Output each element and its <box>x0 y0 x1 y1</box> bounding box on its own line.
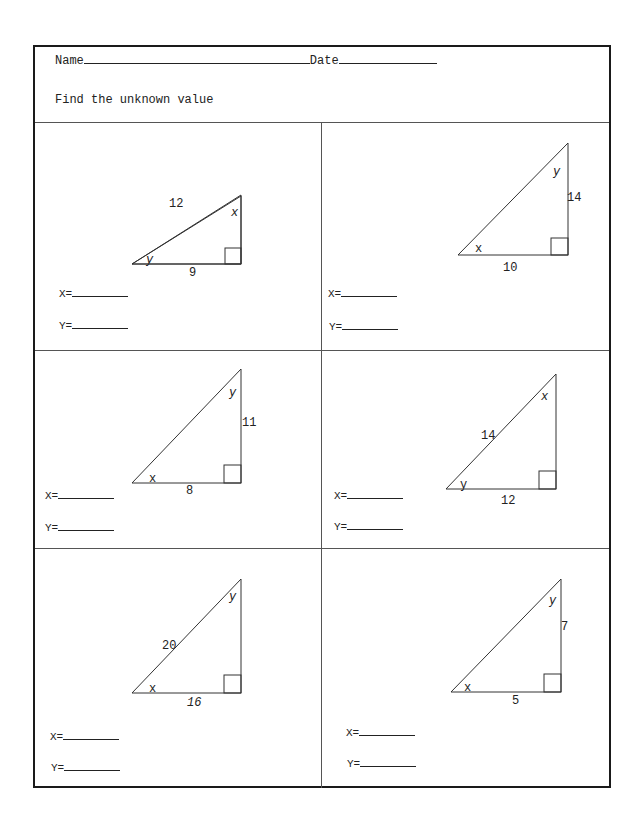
triangle-3-angle-top: y <box>228 386 237 400</box>
triangle-diagrams: 12 9 x y 14 10 y x 11 8 y x 14 12 x y <box>35 47 611 788</box>
answer-x-6[interactable]: X= <box>346 726 415 739</box>
answer-x-3-field[interactable] <box>58 489 114 499</box>
answer-y-6-field[interactable] <box>360 757 416 767</box>
triangle-1-angle-bottom: y <box>145 253 154 267</box>
triangle-5-hypotenuse: 20 <box>162 639 176 653</box>
answer-x-4[interactable]: X= <box>334 489 403 502</box>
answer-x-1-field[interactable] <box>72 287 128 297</box>
triangle-4-hypotenuse: 14 <box>481 429 495 443</box>
answer-x-2-field[interactable] <box>341 287 397 297</box>
triangle-3-angle-bottom: x <box>149 472 156 486</box>
answer-y-1[interactable]: Y= <box>59 319 128 332</box>
triangle-4-base: 12 <box>501 494 515 508</box>
triangle-5-base: 16 <box>187 696 201 710</box>
triangle-2 <box>458 143 568 255</box>
answer-x-3[interactable]: X= <box>45 489 114 502</box>
triangle-6-height: 7 <box>561 620 568 634</box>
triangle-3 <box>132 369 241 483</box>
answer-x-2[interactable]: X= <box>328 287 397 300</box>
triangle-3-height: 11 <box>242 416 256 430</box>
answer-y-3-field[interactable] <box>58 521 114 531</box>
triangle-6-base: 5 <box>512 694 519 708</box>
triangle-6-angle-bottom: x <box>464 681 471 695</box>
answer-y-4-field[interactable] <box>347 520 403 530</box>
answer-y-5-field[interactable] <box>64 761 120 771</box>
triangle-4 <box>446 374 556 489</box>
triangle-2-base: 10 <box>503 261 517 275</box>
answer-y-4[interactable]: Y= <box>334 520 403 533</box>
answer-y-1-field[interactable] <box>72 319 128 329</box>
triangle-1-angle-top: x <box>230 206 239 220</box>
answer-y-5[interactable]: Y= <box>51 761 120 774</box>
answer-x-6-field[interactable] <box>359 726 415 736</box>
worksheet: NameDate Find the unknown value 12 9 x y… <box>33 45 611 788</box>
answer-x-5[interactable]: X= <box>50 730 119 743</box>
triangle-2-angle-top: y <box>552 165 561 179</box>
answer-y-2[interactable]: Y= <box>329 320 398 333</box>
answer-y-2-field[interactable] <box>342 320 398 330</box>
answer-x-4-field[interactable] <box>347 489 403 499</box>
triangle-5 <box>132 579 241 693</box>
triangle-6 <box>451 579 561 692</box>
triangle-2-height: 14 <box>567 191 581 205</box>
triangle-1-base: 9 <box>189 266 196 280</box>
triangle-1-hypotenuse: 12 <box>169 197 183 211</box>
answer-x-5-field[interactable] <box>63 730 119 740</box>
answer-y-3[interactable]: Y= <box>45 521 114 534</box>
triangle-5-angle-top: y <box>228 590 237 604</box>
answer-y-6[interactable]: Y= <box>347 757 416 770</box>
triangle-5-angle-bottom: x <box>149 682 156 696</box>
answer-x-1[interactable]: X= <box>59 287 128 300</box>
triangle-6-angle-top: y <box>548 594 557 608</box>
triangle-4-angle-top: x <box>540 390 549 404</box>
triangle-2-angle-bottom: x <box>475 242 482 256</box>
triangle-3-base: 8 <box>186 484 193 498</box>
triangle-4-angle-bottom: y <box>460 478 467 492</box>
